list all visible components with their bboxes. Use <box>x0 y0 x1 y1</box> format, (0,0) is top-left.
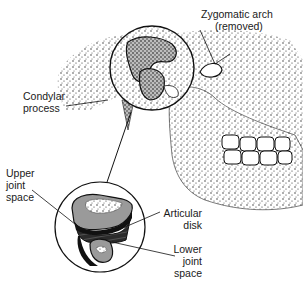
connector-line <box>105 112 131 188</box>
joint-detail-circle-bottom <box>55 182 145 272</box>
label-upper-joint-space: Upper joint space <box>6 167 35 203</box>
label-articular-disk: Articular disk <box>160 207 202 231</box>
label-zygomatic-arch: Zygomatic arch (removed) <box>201 8 273 32</box>
label-condylar-process: Condylar process <box>23 90 65 114</box>
label-zygomatic-arch-line1: Zygomatic arch <box>201 8 273 20</box>
label-lower-joint-space-line1: Lower <box>168 243 202 255</box>
label-condylar-process-line2: process <box>23 102 65 114</box>
label-upper-joint-space-line2: joint <box>6 179 35 191</box>
tmj-illustration <box>0 0 303 285</box>
label-articular-disk-line2: disk <box>160 219 202 231</box>
label-condylar-process-line1: Condylar <box>23 90 65 102</box>
label-articular-disk-line1: Articular <box>160 207 202 219</box>
joint-detail-circle-top <box>110 26 194 110</box>
label-upper-joint-space-line1: Upper <box>6 167 35 179</box>
label-lower-joint-space-line2: joint <box>168 255 202 267</box>
label-lower-joint-space-line3: space <box>168 267 202 279</box>
label-lower-joint-space: Lower joint space <box>168 243 202 279</box>
label-zygomatic-arch-line2: (removed) <box>201 20 273 32</box>
label-upper-joint-space-line3: space <box>6 191 35 203</box>
